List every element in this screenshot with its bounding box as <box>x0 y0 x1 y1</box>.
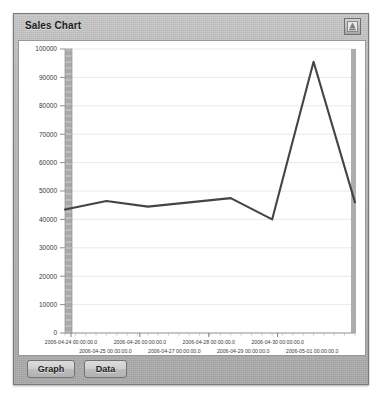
svg-text:2006-04-26 00:00:00.0: 2006-04-26 00:00:00.0 <box>114 339 167 345</box>
svg-text:30000: 30000 <box>39 244 57 251</box>
svg-text:70000: 70000 <box>39 131 57 138</box>
screen: Sales Chart 1000009000080000700006000050… <box>0 0 384 414</box>
svg-text:2006-04-30 00:00:00.0: 2006-04-30 00:00:00.0 <box>251 339 304 345</box>
graph-button[interactable]: Graph <box>27 360 75 378</box>
chart-button-bar: Graph Data <box>14 354 368 384</box>
window-title: Sales Chart <box>25 20 81 31</box>
window-titlebar: Sales Chart <box>14 14 368 40</box>
chart-plot-panel: 1000009000080000700006000050000400003000… <box>18 40 366 356</box>
minimize-icon[interactable] <box>344 18 361 35</box>
chart-window: Sales Chart 1000009000080000700006000050… <box>13 13 369 385</box>
line-chart: 1000009000080000700006000050000400003000… <box>19 41 365 355</box>
svg-text:50000: 50000 <box>39 187 57 194</box>
svg-text:20000: 20000 <box>39 273 57 280</box>
svg-text:2006-04-24 00:00:00.0: 2006-04-24 00:00:00.0 <box>45 339 98 345</box>
svg-text:10000: 10000 <box>39 301 57 308</box>
svg-text:100000: 100000 <box>35 45 57 52</box>
svg-text:80000: 80000 <box>39 102 57 109</box>
svg-text:60000: 60000 <box>39 159 57 166</box>
svg-text:2006-04-28 00:00:00.0: 2006-04-28 00:00:00.0 <box>183 339 236 345</box>
svg-text:90000: 90000 <box>39 74 57 81</box>
data-button[interactable]: Data <box>84 360 127 378</box>
svg-text:0: 0 <box>53 329 57 336</box>
svg-text:40000: 40000 <box>39 216 57 223</box>
